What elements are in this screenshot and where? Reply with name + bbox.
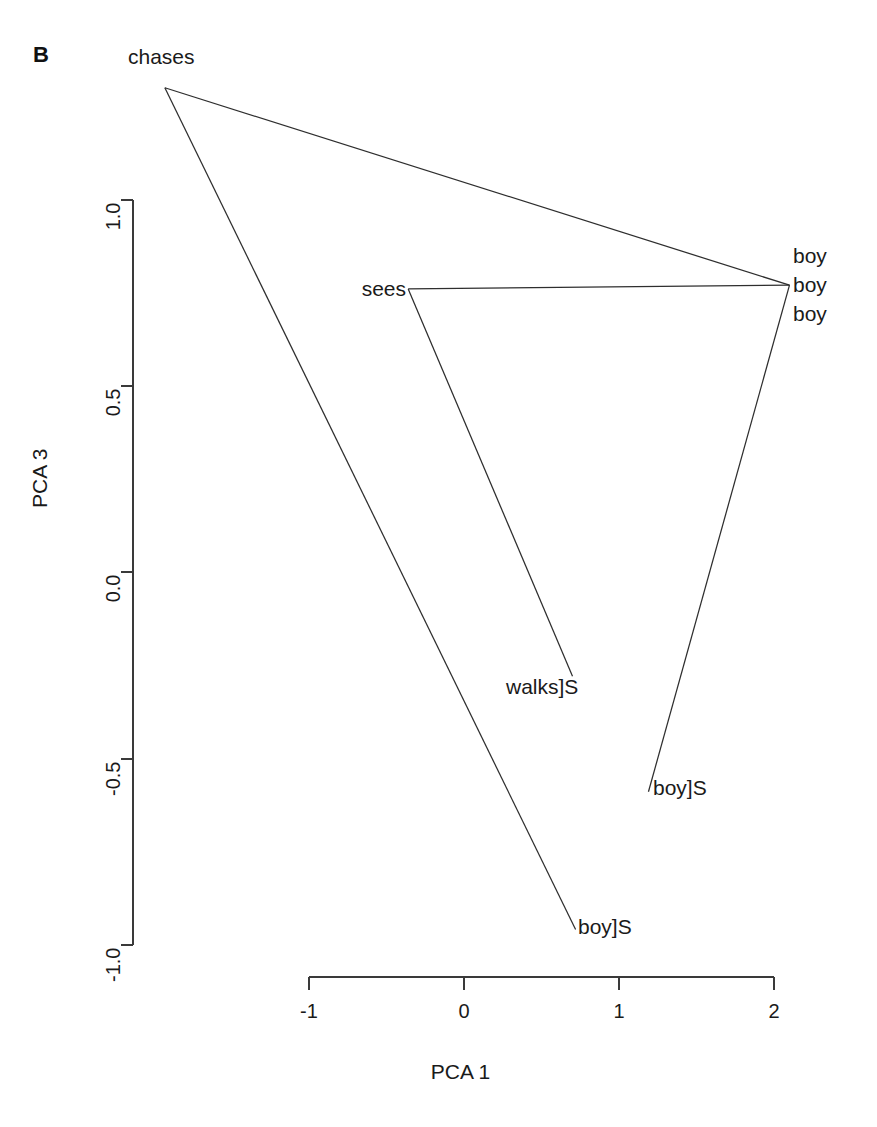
node-label-boy-s-mid: boy]S [653, 777, 707, 798]
node-label-chases: chases [128, 46, 195, 67]
tree-edge-boy-to-boy]S [648, 285, 789, 792]
y-axis-title: PCA 3 [28, 456, 52, 508]
node-label-boy-1: boy [793, 245, 827, 266]
tree-edges [165, 88, 790, 930]
y-tick-label--0.5: -0.5 [102, 762, 125, 827]
plot-canvas [0, 0, 877, 1127]
y-tick-label--1.0: -1.0 [102, 948, 125, 1013]
node-label-boy-3: boy [793, 303, 827, 324]
tree-edge-sees-to-walks]S [408, 289, 572, 676]
x-tick-label-2: 2 [734, 1000, 814, 1023]
x-tick-label-1: 1 [579, 1000, 659, 1023]
tree-edge-sees-to-boy [408, 285, 789, 289]
figure-panel-b: B 1.0 0.5 0.0 -0.5 -1.0 -1 0 1 2 PCA 3 [0, 0, 877, 1127]
x-axis-title: PCA 1 [0, 1060, 877, 1084]
x-axis [309, 977, 774, 990]
tree-edge-chases-to-boy]S [165, 88, 576, 930]
node-label-sees: sees [303, 278, 406, 299]
node-label-boy-s-low: boy]S [578, 916, 632, 937]
x-tick-label-0: 0 [424, 1000, 504, 1023]
y-tick-label-0.0: 0.0 [102, 575, 125, 633]
node-label-boy-2: boy [793, 274, 827, 295]
tree-edge-chases-to-boy [165, 88, 790, 285]
y-tick-label-0.5: 0.5 [102, 389, 125, 447]
x-tick-label--1: -1 [269, 1000, 349, 1023]
node-label-walks-s: walks]S [506, 676, 578, 697]
y-tick-label-1.0: 1.0 [102, 203, 125, 261]
y-axis [121, 200, 133, 945]
